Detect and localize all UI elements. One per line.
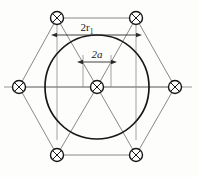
node-top-left[interactable] (51, 12, 64, 25)
extension-lines (57, 18, 136, 140)
label-2r1-subscript: 1 (90, 27, 94, 36)
label-2r1: 2r1 (81, 21, 94, 36)
node-middle-left[interactable] (13, 81, 26, 94)
node-center[interactable] (91, 81, 104, 94)
node-top-right[interactable] (130, 12, 143, 25)
label-2r1-base: 2r (81, 21, 91, 33)
node-middle-right[interactable] (169, 81, 182, 94)
node-bottom-right[interactable] (130, 149, 143, 162)
svg-text:2r1: 2r1 (81, 21, 94, 36)
figure-container: 2r1 2a (0, 0, 199, 177)
node-bottom-left[interactable] (51, 149, 64, 162)
technical-diagram: 2r1 2a (0, 0, 199, 177)
label-2a-text: 2a (92, 48, 104, 60)
label-2a: 2a (92, 48, 104, 60)
